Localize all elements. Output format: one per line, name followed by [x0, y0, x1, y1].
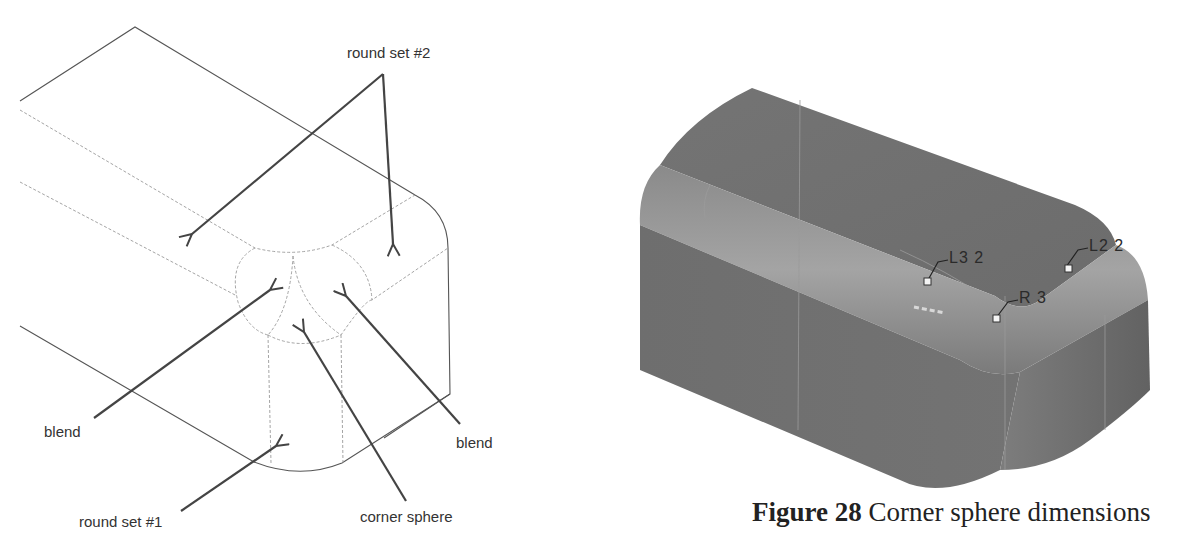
- figure-caption: Figure 28 Corner sphere dimensions: [752, 497, 1150, 528]
- shaded-solid-drawing: [600, 0, 1185, 553]
- wireframe-drawing: [0, 0, 580, 553]
- dimension-label-l3[interactable]: L3 2: [949, 249, 984, 267]
- shaded-model-figure: L3 2 L2 2 R 3 Figure 28 Corner sphere di…: [600, 0, 1185, 553]
- dimension-handle-r[interactable]: [993, 315, 1000, 322]
- dimension-label-r[interactable]: R 3: [1019, 289, 1047, 307]
- label-round-set-1: round set #1: [79, 513, 162, 530]
- caption-text: Corner sphere dimensions: [862, 497, 1151, 527]
- dimension-label-l2[interactable]: L2 2: [1089, 237, 1124, 255]
- label-blend-right: blend: [456, 434, 493, 451]
- wireframe-diagram: round set #2 blend blend round set #1 co…: [0, 0, 580, 553]
- label-corner-sphere: corner sphere: [360, 508, 453, 525]
- dimension-handle-l3[interactable]: [924, 278, 931, 285]
- label-round-set-2: round set #2: [347, 44, 430, 61]
- label-blend-left: blend: [44, 423, 81, 440]
- dimension-handle-l2[interactable]: [1065, 265, 1072, 272]
- figure-number: Figure 28: [752, 497, 862, 527]
